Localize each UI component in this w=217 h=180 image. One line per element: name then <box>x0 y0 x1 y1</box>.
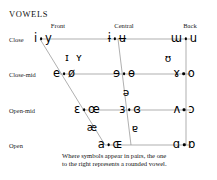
pair-dot-icon <box>183 73 186 76</box>
row-label-open: Open <box>9 142 23 149</box>
vowel-symbol-rams-horn: ɤ <box>173 68 180 80</box>
vowel-symbol-schwa: ə <box>123 87 129 98</box>
vowel-symbol-small-capital-i: ɪ <box>65 52 69 63</box>
vowel-pair-open-mid-back: ʌ ɔ <box>174 104 195 116</box>
vowel-pair-close-mid-back: ɤ o <box>173 68 195 80</box>
vowel-symbol-turned-script-a: ɒ <box>188 139 195 151</box>
vowel-symbol-o: o <box>188 68 195 80</box>
row-label-close: Close <box>9 36 24 43</box>
vowel-symbol-closed-reversed-epsilon: ɞ <box>133 104 141 116</box>
vowel-pair-close-mid-central: ɘ ɵ <box>113 68 135 80</box>
row-label-open-mid: Open-mid <box>9 107 35 114</box>
pair-dot-icon <box>107 144 110 147</box>
row-label-close-mid: Close-mid <box>9 71 36 78</box>
pair-dot-icon <box>63 73 66 76</box>
vowel-symbol-turned-a: ɐ <box>132 123 138 134</box>
vowel-symbol-barred-u: ʉ <box>119 33 126 45</box>
pair-dot-icon <box>185 38 188 41</box>
caption-line-1: Where symbols appear in pairs, the one <box>62 152 212 160</box>
vowel-symbol-ae-ligature: æ <box>87 122 97 133</box>
vowel-symbol-epsilon: ɛ <box>74 104 80 116</box>
vowel-symbol-upsilon: ʊ <box>165 53 172 64</box>
vowel-symbol-reversed-epsilon: ɜ <box>119 104 125 116</box>
vowel-pair-close-central: ɨ ʉ <box>108 33 126 45</box>
pair-dot-icon <box>123 73 126 76</box>
vowel-symbol-small-capital-oe: ɶ <box>112 139 122 151</box>
vowel-symbol-script-a: ɑ <box>173 139 180 151</box>
vowel-symbol-u: u <box>190 33 197 45</box>
pair-dot-icon <box>183 144 186 147</box>
vowel-symbol-open-o: ɔ <box>188 104 194 116</box>
column-header-front: Front <box>51 22 65 29</box>
vowel-symbol-o-slash: ø <box>68 68 75 80</box>
column-header-back: Back <box>183 22 197 29</box>
vowel-symbol-turned-m: ɯ <box>171 33 182 45</box>
vowel-pair-close-mid-front: e ø <box>53 68 75 80</box>
chart-caption: Where symbols appear in pairs, the one t… <box>62 152 212 169</box>
vowel-pair-close-front: i y <box>34 33 52 45</box>
pair-dot-icon <box>183 109 186 112</box>
vowel-symbol-turned-v: ʌ <box>174 104 181 116</box>
vowel-pair-close-back: ɯ u <box>171 33 197 45</box>
vowel-symbol-small-capital-y: ʏ <box>76 52 82 63</box>
vowel-pair-open-mid-front: ɛ œ <box>74 104 100 116</box>
caption-line-2: to the right represents a rounded vowel. <box>62 160 212 168</box>
ipa-vowel-chart: VOWELS Front Central Back Close Close-mi… <box>0 0 217 180</box>
vowel-pair-open-front: a ɶ <box>98 139 123 151</box>
vowel-symbol-barred-o: ɵ <box>128 68 135 80</box>
vowel-symbol-barred-i: ɨ <box>108 33 111 45</box>
pair-dot-icon <box>40 38 43 41</box>
vowel-pair-open-back: ɑ ɒ <box>173 139 195 151</box>
column-header-central: Central <box>114 22 133 29</box>
vowel-symbol-oe-ligature: œ <box>88 104 100 116</box>
pair-dot-icon <box>83 109 86 112</box>
vowel-symbol-i: i <box>34 33 37 45</box>
vowel-symbol-e: e <box>53 68 60 80</box>
vowel-symbol-a: a <box>98 139 105 151</box>
vowel-symbol-reversed-e: ɘ <box>113 68 120 80</box>
pair-dot-icon <box>114 38 117 41</box>
pair-dot-icon <box>128 109 131 112</box>
vowel-symbol-y: y <box>45 33 52 45</box>
vowel-pair-open-mid-central: ɜ ɞ <box>119 104 141 116</box>
